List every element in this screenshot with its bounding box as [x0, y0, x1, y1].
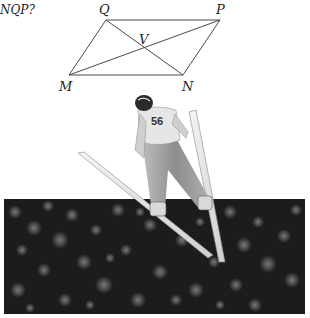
parallelogram-figure — [0, 0, 310, 100]
left-arm — [135, 114, 146, 158]
vertex-label-p: P — [216, 3, 225, 16]
intersection-label-v: V — [139, 33, 148, 46]
ski-jumper-photo: 56 — [0, 90, 310, 318]
ski-jumper-image: 56 — [0, 90, 310, 318]
vertex-label-q: Q — [99, 3, 110, 16]
diagonal-qn — [106, 20, 183, 75]
parallelogram-diagram: Q P V M N — [0, 0, 310, 100]
helmet — [135, 95, 153, 111]
right-boot — [198, 196, 212, 210]
bib-number: 56 — [151, 115, 163, 127]
left-boot — [150, 202, 166, 216]
